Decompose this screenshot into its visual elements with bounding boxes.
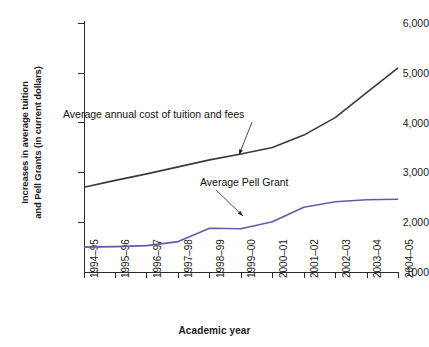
chart-figure: Increases in average tuition and Pell Gr… <box>0 0 429 347</box>
line-average-pell-grant <box>84 199 398 247</box>
annotation-label-tuition: Average annual cost of tuition and fees <box>63 108 244 120</box>
series-canvas <box>0 0 429 347</box>
annotation-leader-pell <box>216 190 243 216</box>
line-average-tuition-and-fees <box>84 68 398 188</box>
annotation-label-pell-grant: Average Pell Grant <box>200 176 289 188</box>
